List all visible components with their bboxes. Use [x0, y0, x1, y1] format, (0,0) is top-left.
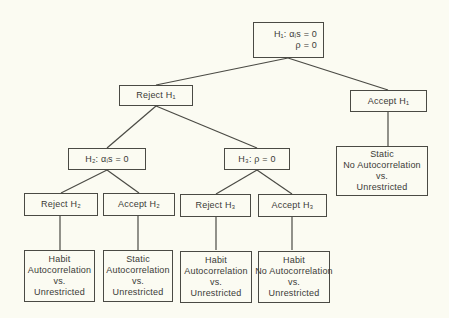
leaf-line: Habit [48, 254, 70, 265]
leaf-result-2: Static Autocorrelation vs. Unrestricted [103, 250, 173, 302]
root-hypothesis-h1: H₁: αᵢs = 0 ρ = 0 [253, 22, 324, 58]
reject-h1-node: Reject H₁ [119, 85, 193, 106]
h1-line2: ρ = 0 [296, 40, 317, 51]
accept-h2-label: Accept H₂ [118, 199, 160, 210]
reject-h2-label: Reject H₂ [41, 199, 81, 210]
result-line: No Autocorrelation [343, 160, 421, 171]
reject-h3-node: Reject H₃ [180, 194, 251, 217]
leaf-line: Habit [205, 255, 227, 266]
leaf-line: Habit [283, 255, 305, 266]
leaf-line: Autocorrelation [106, 265, 170, 276]
accept-h1-result: Static No Autocorrelation vs. Unrestrict… [336, 146, 428, 196]
leaf-line: Autocorrelation [184, 266, 248, 277]
result-line: vs. [376, 171, 388, 182]
leaf-result-3: Habit Autocorrelation vs. Unrestricted [180, 251, 252, 303]
leaf-line: Unrestricted [34, 287, 85, 298]
accept-h3-label: Accept H₃ [272, 200, 314, 211]
h2-label: H₂: αᵢs = 0 [85, 154, 129, 165]
leaf-line: Autocorrelation [28, 265, 92, 276]
h3-label: H₃: ρ = 0 [238, 154, 275, 165]
leaf-line: No Autocorrelation [255, 266, 333, 277]
accept-h1-node: Accept H₁ [350, 90, 427, 112]
accept-h1-label: Accept H₁ [368, 96, 409, 107]
accept-h2-node: Accept H₂ [103, 193, 175, 216]
h1-line1: H₁: αᵢs = 0 [274, 29, 317, 40]
leaf-line: Static [126, 254, 150, 265]
leaf-line: Unrestricted [113, 287, 164, 298]
hypothesis-h3: H₃: ρ = 0 [224, 148, 290, 170]
leaf-line: vs. [288, 277, 300, 288]
result-line: Static [370, 149, 394, 160]
accept-h3-node: Accept H₃ [258, 194, 327, 217]
reject-h3-label: Reject H₃ [196, 200, 236, 211]
result-line: Unrestricted [357, 182, 408, 193]
leaf-result-4: Habit No Autocorrelation vs. Unrestricte… [258, 251, 330, 303]
hypothesis-h2: H₂: αᵢs = 0 [68, 148, 146, 170]
leaf-result-1: Habit Autocorrelation vs. Unrestricted [24, 250, 95, 302]
reject-h1-label: Reject H₁ [136, 90, 175, 101]
leaf-line: Unrestricted [269, 288, 320, 299]
leaf-line: vs. [132, 276, 144, 287]
reject-h2-node: Reject H₂ [24, 193, 98, 216]
leaf-line: vs. [53, 276, 65, 287]
leaf-line: Unrestricted [191, 288, 242, 299]
leaf-line: vs. [210, 277, 222, 288]
